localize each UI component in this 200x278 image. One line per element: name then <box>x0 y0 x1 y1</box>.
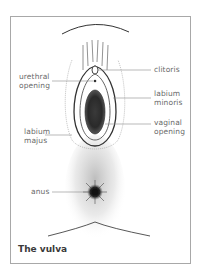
label-anus: anus <box>31 188 49 197</box>
pubic-arc <box>62 24 129 34</box>
figure-caption: The vulva <box>18 244 67 254</box>
label-clitoris: clitoris <box>154 66 180 75</box>
urethral-opening-shape <box>94 80 97 83</box>
clitoris-shape <box>92 66 98 74</box>
label-vaginal-opening: vaginal opening <box>154 119 185 136</box>
label-labium-minoris: labium minoris <box>154 90 183 107</box>
label-labium-majus: labium majus <box>24 128 50 145</box>
label-urethral-opening: urethral opening <box>19 73 50 90</box>
vaginal-opening-shape <box>85 90 105 134</box>
